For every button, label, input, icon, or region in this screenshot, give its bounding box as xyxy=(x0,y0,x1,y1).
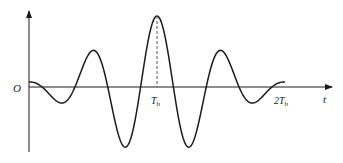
tick-label-tb: Tb xyxy=(151,95,161,108)
waveform-diagram: O t Tb 2Tb xyxy=(0,0,343,163)
tick-label-2tb: 2Tb xyxy=(274,95,289,108)
x-axis-label: t xyxy=(323,93,327,105)
origin-label: O xyxy=(13,82,21,94)
tick-label-2tb-sub: b xyxy=(285,100,289,108)
tick-label-tb-sub: b xyxy=(157,100,161,108)
